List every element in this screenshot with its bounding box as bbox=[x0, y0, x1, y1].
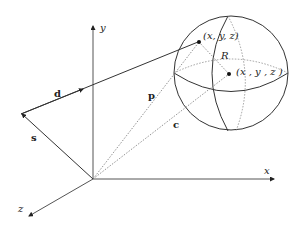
center-point bbox=[227, 72, 231, 76]
axes: y x z bbox=[17, 22, 274, 216]
vector-sphere-diagram: y x z s d p c R (x, y, z) bbox=[0, 0, 303, 227]
vector-c-label: c bbox=[173, 119, 179, 130]
surface-point bbox=[197, 40, 201, 44]
vectors: s d p c R bbox=[21, 42, 229, 179]
vector-d-label: d bbox=[54, 88, 61, 99]
y-axis-label: y bbox=[99, 22, 106, 33]
vector-s-label: s bbox=[31, 132, 37, 143]
x-axis-label: x bbox=[264, 165, 270, 176]
center-point-label: (x , y , z ) bbox=[236, 66, 283, 77]
vector-c bbox=[93, 74, 229, 179]
vector-s bbox=[22, 114, 93, 179]
vector-p bbox=[93, 42, 199, 179]
radius-label: R bbox=[220, 50, 229, 61]
vector-d-arrow bbox=[21, 89, 83, 114]
z-axis bbox=[29, 179, 93, 216]
vector-p-label: p bbox=[148, 90, 155, 101]
z-axis-label: z bbox=[17, 203, 24, 214]
surface-point-label: (x, y, z) bbox=[203, 30, 239, 41]
